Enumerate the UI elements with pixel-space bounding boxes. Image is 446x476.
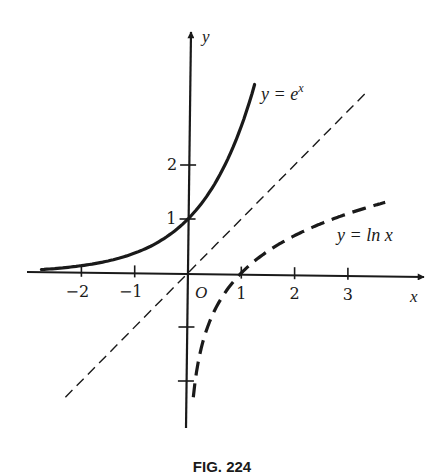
figure: −2−1123 12 y x O y = ex y = ln x FIG. 22… xyxy=(0,0,446,476)
x-tick-label: −1 xyxy=(119,282,143,301)
x-axis xyxy=(27,272,424,277)
exp-curve-label: y = ex xyxy=(259,81,304,104)
x-tick-label: −2 xyxy=(66,282,90,301)
origin-label: O xyxy=(195,283,207,302)
x-axis-label: x xyxy=(409,287,418,306)
ln-curve-label: y = ln x xyxy=(335,225,393,245)
x-tick-label: 2 xyxy=(290,284,300,303)
y-tick-label: 2 xyxy=(167,155,177,174)
y-axis xyxy=(186,32,191,428)
y-axis-label: y xyxy=(200,27,210,46)
identity-line xyxy=(65,92,366,397)
exp-label-base: y = e xyxy=(259,84,298,104)
exp-curve xyxy=(41,85,254,270)
y-ticks: 12 xyxy=(166,155,196,381)
plot-area: −2−1123 12 y x O y = ex y = ln x FIG. 22… xyxy=(0,0,446,476)
y-tick-label: 1 xyxy=(166,209,176,228)
x-tick-label: 3 xyxy=(343,285,353,304)
x-tick-label: 1 xyxy=(236,284,246,303)
x-ticks: −2−1123 xyxy=(66,265,353,304)
figure-caption: FIG. 224 xyxy=(193,458,252,475)
exp-label-exponent: x xyxy=(297,81,304,95)
